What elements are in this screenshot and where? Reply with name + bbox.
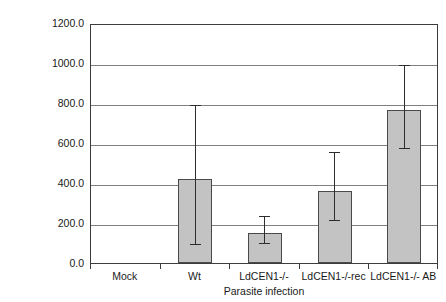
x-axis-tick-label: LdCEN1-/- AB <box>351 270 446 283</box>
y-axis-tick-label: 600.0 <box>28 138 84 149</box>
y-axis-tick-labels: 0.0200.0400.0600.0800.01000.01200.0 <box>28 0 84 302</box>
error-bar-stem <box>404 66 405 149</box>
error-bar-cap-lower <box>190 244 201 245</box>
error-bar-stem <box>195 106 196 245</box>
x-axis-title: Parasite infection <box>90 285 438 297</box>
error-bar-stem <box>334 153 335 221</box>
y-axis-tick-label: 400.0 <box>28 178 84 189</box>
y-axis-tick-label: 1200.0 <box>28 18 84 29</box>
x-axis-tick <box>437 264 438 269</box>
x-axis-tick <box>229 264 230 269</box>
y-axis-tick-label: 800.0 <box>28 98 84 109</box>
bar-chart: Relative copy number 0.0200.0400.0600.08… <box>0 0 446 302</box>
error-bar-cap-lower <box>259 243 270 244</box>
error-bar-cap-upper <box>329 152 340 153</box>
y-axis-tick-label: 1000.0 <box>28 58 84 69</box>
error-bar-cap-upper <box>259 216 270 217</box>
x-axis-tick <box>368 264 369 269</box>
x-axis-tick-labels: MockWtLdCEN1-/-LdCEN1-/-recLdCEN1-/- AB <box>86 270 442 286</box>
bars-layer <box>91 25 437 263</box>
plot-area <box>90 24 438 264</box>
error-bar-cap-upper <box>399 65 410 66</box>
error-bar-cap-lower <box>399 148 410 149</box>
x-axis-tick <box>160 264 161 269</box>
x-axis-tick <box>90 264 91 269</box>
error-bar-cap-upper <box>190 105 201 106</box>
bar-group <box>230 25 300 263</box>
bar-group <box>161 25 231 263</box>
bar-group <box>91 25 161 263</box>
bar-group <box>369 25 439 263</box>
bar-group <box>300 25 370 263</box>
error-bar-cap-lower <box>329 220 340 221</box>
y-axis-tick-label: 0.0 <box>28 258 84 269</box>
x-axis-tick <box>299 264 300 269</box>
y-axis-tick-label: 200.0 <box>28 218 84 229</box>
error-bar-stem <box>264 217 265 244</box>
